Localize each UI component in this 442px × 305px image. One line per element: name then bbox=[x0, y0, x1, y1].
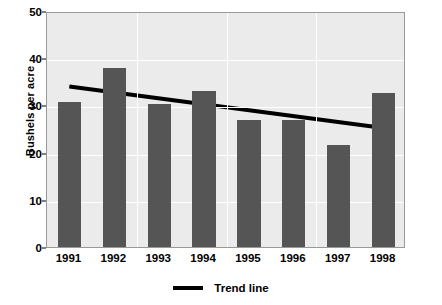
bar-1991 bbox=[58, 102, 81, 247]
gridline-horizontal bbox=[47, 60, 404, 61]
bar-1996 bbox=[282, 120, 305, 247]
y-tick-label: 0 bbox=[2, 242, 42, 254]
x-tick-label-1993: 1993 bbox=[145, 252, 171, 264]
chart-figure: Bushels per acre 01020304050 19911992199… bbox=[0, 0, 442, 305]
trend-line bbox=[47, 13, 404, 247]
gridline-horizontal bbox=[47, 202, 404, 203]
x-tick-label-1994: 1994 bbox=[190, 252, 216, 264]
bar-1998 bbox=[372, 93, 395, 247]
y-tick-label: 10 bbox=[2, 195, 42, 207]
x-tick-label-1996: 1996 bbox=[280, 252, 306, 264]
plot-area bbox=[46, 12, 405, 248]
y-tick-label: 20 bbox=[2, 148, 42, 160]
bar-1994 bbox=[192, 91, 215, 247]
y-tick-label: 50 bbox=[2, 6, 42, 18]
x-tick-label-1991: 1991 bbox=[56, 252, 82, 264]
bar-1992 bbox=[103, 68, 126, 247]
bar-1993 bbox=[148, 104, 171, 247]
gridline-vertical bbox=[227, 13, 228, 247]
y-axis-ticks: 01020304050 bbox=[0, 0, 42, 305]
bar-1995 bbox=[237, 120, 260, 247]
legend-label: Trend line bbox=[214, 282, 268, 294]
x-tick-label-1992: 1992 bbox=[101, 252, 127, 264]
gridline-horizontal bbox=[47, 155, 404, 156]
chart-legend: Trend line bbox=[0, 282, 442, 294]
legend-swatch-line-icon bbox=[173, 286, 203, 290]
x-tick-label-1998: 1998 bbox=[370, 252, 396, 264]
x-tick-label-1995: 1995 bbox=[235, 252, 261, 264]
y-tick-label: 30 bbox=[2, 100, 42, 112]
y-tick-label: 40 bbox=[2, 53, 42, 65]
gridline-horizontal bbox=[47, 107, 404, 108]
gridline-vertical bbox=[137, 13, 138, 247]
x-axis-ticks: 19911992199319941995199619971998 bbox=[46, 252, 405, 272]
gridline-vertical bbox=[316, 13, 317, 247]
x-tick-label-1997: 1997 bbox=[325, 252, 351, 264]
bar-1997 bbox=[327, 145, 350, 247]
